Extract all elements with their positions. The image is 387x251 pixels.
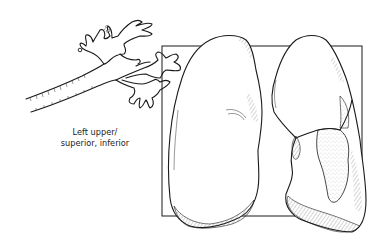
figure-caption: Left upper/ superior, inferior [40,127,150,149]
caption-line-2: superior, inferior [40,138,150,149]
illustration-canvas: Left upper/ superior, inferior [0,0,387,251]
lung-right [169,36,263,229]
bronchial-tree [26,21,181,113]
lung-illustration [0,0,387,251]
caption-line-1: Left upper/ [40,127,150,138]
lung-left [272,36,366,233]
